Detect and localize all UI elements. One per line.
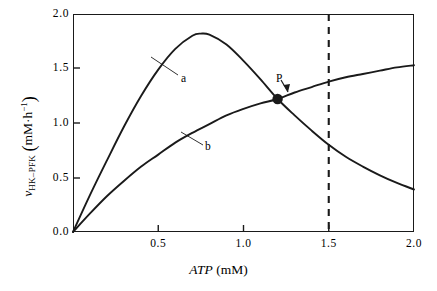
curve-a-path — [73, 38, 414, 232]
y-axis-title-subscript: HK–PFK — [27, 154, 37, 190]
y-axis-title: νHK–PFK (mM·h−1) — [19, 51, 40, 241]
x-tick-label-1-0: 1.0 — [224, 237, 264, 249]
y-tick-label-1-5: 1.5 — [35, 62, 69, 73]
y-tick-label-1-0: 1.0 — [35, 117, 69, 128]
y-axis-ticks — [73, 68, 80, 178]
y-axis-title-symbol: ν — [20, 190, 35, 196]
y-axis-units-text: mM·h — [20, 111, 35, 145]
y-axis-units-exponent: −1 — [19, 102, 29, 112]
x-tick-label-2-0: 2.0 — [394, 237, 434, 249]
x-tick-label-0-5: 0.5 — [138, 237, 178, 249]
y-axis-units-close-paren: ) — [19, 96, 39, 102]
curve-b — [73, 65, 414, 232]
curve-a-label: a — [181, 72, 186, 84]
x-axis-title: ATP (mM) — [0, 262, 437, 278]
y-tick-label-2-0: 2.0 — [35, 8, 69, 19]
y-tick-label-0-5: 0.5 — [35, 172, 69, 183]
curve-a — [73, 33, 414, 232]
x-axis-title-italic: ATP — [189, 262, 213, 277]
curve-a-leader-line — [151, 57, 178, 75]
y-tick-label-0-0: 0.0 — [35, 226, 69, 237]
y-axis-units-open-paren: ( — [19, 145, 39, 151]
figure-root: 2.0 1.5 1.0 0.5 0.0 0.5 1.0 1.5 2.0 a b … — [0, 0, 437, 291]
x-tick-label-1-5: 1.5 — [309, 237, 349, 249]
x-axis-ticks — [158, 225, 329, 232]
x-axis-title-units: (mM) — [213, 262, 248, 277]
point-p-marker — [272, 94, 282, 104]
point-p-label: P — [276, 72, 282, 84]
curve-b-label: b — [205, 140, 211, 152]
